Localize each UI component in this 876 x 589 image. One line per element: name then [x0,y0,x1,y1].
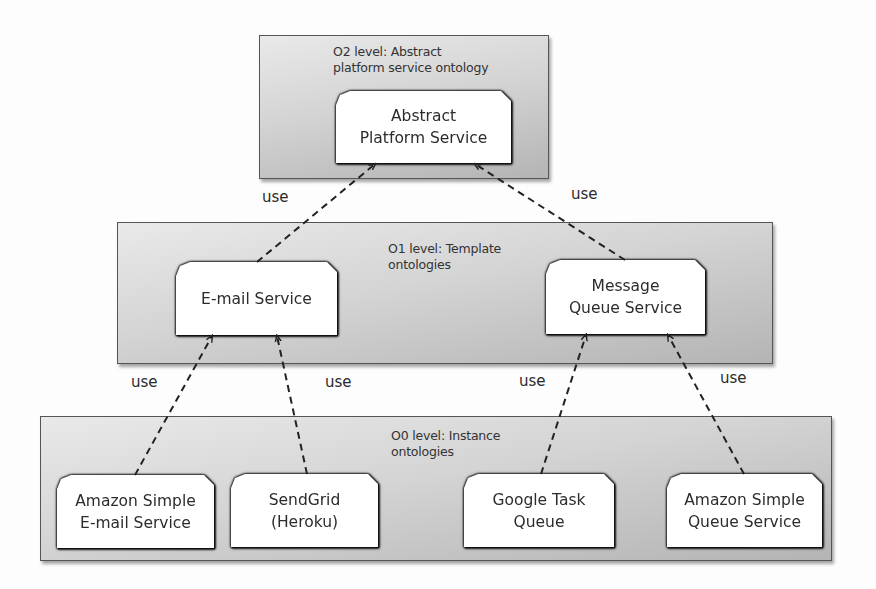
node-mq-body: Message Queue Service [546,260,705,334]
node-amazon-sqs: Amazon Simple Queue Service [667,474,822,547]
node-sendgrid-line2: (Heroku) [269,511,341,533]
node-ses-line1: Amazon Simple [75,490,196,512]
node-abstract-platform-service: Abstract Platform Service [336,91,511,163]
node-sendgrid-heroku: SendGrid (Heroku) [231,474,378,547]
level-o2-label-line2: platform service ontology [333,60,488,76]
node-mq-line2: Queue Service [569,297,682,319]
use-label-sendgrid-email: use [325,373,352,391]
node-gtq-line2: Queue [492,511,585,533]
level-o1-label-line1: O1 level: Template [388,241,501,257]
node-amazon-ses: Amazon Simple E-mail Service [57,475,214,548]
level-o0-label-line1: O0 level: Instance [391,428,500,444]
node-sqs-line2: Queue Service [684,511,805,533]
level-o0-label-line2: ontologies [391,444,500,460]
level-o0-label: O0 level: Instance ontologies [391,428,500,460]
node-abstract-body: Abstract Platform Service [336,91,511,163]
level-o1-label: O1 level: Template ontologies [388,241,501,273]
node-ses-line2: E-mail Service [75,512,196,534]
use-label-email-abstract: use [262,188,289,206]
node-email-service: E-mail Service [176,262,337,335]
node-sqs-body: Amazon Simple Queue Service [667,474,822,547]
node-sendgrid-line1: SendGrid [269,489,341,511]
node-email-body: E-mail Service [176,262,337,335]
use-label-mq-abstract: use [571,185,598,203]
use-label-ses-email: use [131,373,158,391]
use-label-sqs-mq: use [720,369,747,387]
node-message-queue-service: Message Queue Service [546,260,705,334]
node-gtq-body: Google Task Queue [464,474,614,547]
node-abstract-line1: Abstract [360,105,488,127]
node-abstract-line2: Platform Service [360,127,488,149]
node-google-task-queue: Google Task Queue [464,474,614,547]
node-ses-body: Amazon Simple E-mail Service [57,475,214,548]
node-email-line1: E-mail Service [201,288,312,310]
node-sqs-line1: Amazon Simple [684,489,805,511]
level-o2-label: O2 level: Abstract platform service onto… [333,44,488,76]
level-o2-label-line1: O2 level: Abstract [333,44,488,60]
level-o1-label-line2: ontologies [388,257,501,273]
node-mq-line1: Message [569,275,682,297]
node-gtq-line1: Google Task [492,489,585,511]
node-sendgrid-body: SendGrid (Heroku) [231,474,378,547]
use-label-gtq-mq: use [519,372,546,390]
